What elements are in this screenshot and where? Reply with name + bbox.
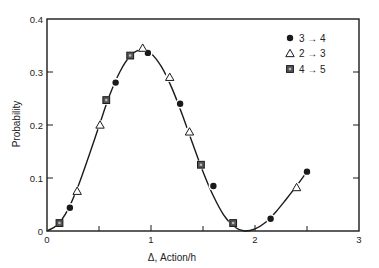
series-open-triangle: [72, 43, 301, 196]
square-inner-dot: [289, 68, 292, 71]
y-tick-label: 0.2: [30, 120, 43, 131]
data-point: [112, 79, 118, 85]
x-axis-title: Δ, Action/h: [148, 252, 196, 263]
data-point: [177, 101, 183, 107]
filled-circle-legend-icon: [287, 35, 293, 41]
data-points: [55, 43, 312, 228]
data-point: [67, 204, 73, 210]
y-tick-label: 0.4: [30, 14, 43, 25]
square-inner-dot: [105, 99, 108, 102]
series-shaded-square: [55, 51, 238, 228]
y-tick-label: 0.3: [30, 67, 43, 78]
y-tick-label: 0: [38, 226, 43, 237]
legend-item: 2 → 3: [286, 48, 326, 59]
probability-curve: [47, 50, 307, 231]
x-tick-label: 1: [148, 234, 153, 245]
legend-label: 3 → 4: [299, 33, 326, 44]
square-inner-dot: [58, 222, 61, 225]
x-tick-label: 2: [252, 234, 257, 245]
data-point: [304, 168, 310, 174]
y-tick-label: 0.1: [30, 173, 43, 184]
open-triangle-legend-icon: [286, 49, 294, 56]
data-point: [210, 183, 216, 189]
square-inner-dot: [200, 163, 203, 166]
x-tick-label: 3: [356, 234, 361, 245]
legend-label: 2 → 3: [299, 48, 326, 59]
fit-curve: [47, 50, 307, 231]
legend: 3 → 42 → 34 → 5: [286, 33, 326, 75]
data-point: [267, 216, 273, 222]
square-inner-dot: [129, 54, 132, 57]
y-axis-title: Probability: [11, 101, 22, 148]
legend-label: 4 → 5: [299, 64, 326, 75]
square-inner-dot: [232, 222, 235, 225]
legend-item: 3 → 4: [287, 33, 326, 44]
x-tick-label: 0: [44, 234, 49, 245]
probability-chart: 00.10.20.30.40123 3 → 42 → 34 → 5 Δ, Act…: [0, 0, 379, 268]
legend-item: 4 → 5: [287, 64, 327, 75]
